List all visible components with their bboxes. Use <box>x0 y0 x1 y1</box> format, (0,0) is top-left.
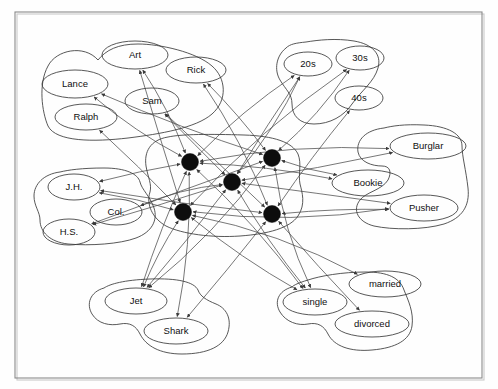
edge-hub-bottom-left-to-married <box>192 215 357 274</box>
edge-hub-bottom-left-to-ralph <box>100 130 176 205</box>
instance-unit-dot[interactable] <box>182 154 199 171</box>
node-hub-bottom-left[interactable] <box>175 204 192 221</box>
node-bookie[interactable]: Bookie <box>332 170 404 196</box>
node-label-art: Art <box>129 49 142 60</box>
edge-hub-bottom-right-to-sam <box>166 114 265 207</box>
instance-unit-dot[interactable] <box>264 206 281 223</box>
node-label-shark: Shark <box>164 325 189 336</box>
node-20s[interactable]: 20s <box>284 52 332 76</box>
node-label-40s: 40s <box>351 92 367 103</box>
node-hs[interactable]: H.S. <box>43 219 95 245</box>
edge-hub-top-left-to-20s <box>198 75 295 155</box>
node-pusher[interactable]: Pusher <box>390 195 458 221</box>
instance-unit-dot[interactable] <box>175 204 192 221</box>
node-label-20s: 20s <box>300 58 316 69</box>
network-diagram-canvas: ArtRickLanceSamRalph20s30s40sBurglarBook… <box>0 0 498 389</box>
node-jh[interactable]: J.H. <box>48 174 100 200</box>
node-label-lance: Lance <box>62 78 88 89</box>
node-label-rick: Rick <box>187 64 206 75</box>
node-label-sam: Sam <box>142 95 162 106</box>
node-burglar[interactable]: Burglar <box>390 133 466 159</box>
edge-hub-bottom-right-to-pusher <box>282 209 389 213</box>
edge-hub-bottom-right-to-40s <box>278 111 350 207</box>
node-col[interactable]: Col. <box>90 199 142 225</box>
node-label-hs: H.S. <box>60 226 78 237</box>
gang-cluster <box>89 279 229 354</box>
diagram-stage: ArtRickLanceSamRalph20s30s40sBurglarBook… <box>0 0 498 389</box>
node-single[interactable]: single <box>283 289 347 315</box>
instance-unit-dot[interactable] <box>224 174 241 191</box>
node-label-ralph: Ralph <box>74 111 99 122</box>
node-lance[interactable]: Lance <box>42 70 108 98</box>
edge-hub-top-right-to-30s <box>279 70 350 150</box>
node-sam[interactable]: Sam <box>125 88 179 114</box>
node-hub-bottom-right[interactable] <box>264 206 281 223</box>
node-art[interactable]: Art <box>102 41 168 69</box>
node-label-jh: J.H. <box>66 181 83 192</box>
edge-hub-top-left-to-single <box>197 170 303 289</box>
node-hub-top-left[interactable] <box>182 154 199 171</box>
edge-hub-top-left-to-jet <box>142 171 187 286</box>
node-married[interactable]: married <box>349 271 421 297</box>
edge-hub-bottom-right-to-shark <box>187 222 266 318</box>
edge-hub-center-to-col <box>141 185 223 206</box>
edge-hub-top-left-to-jh <box>100 164 181 181</box>
edge-hub-center-to-single <box>238 190 306 288</box>
node-hub-top-right[interactable] <box>264 150 281 167</box>
instance-unit-dot[interactable] <box>264 150 281 167</box>
node-shark[interactable]: Shark <box>144 318 208 344</box>
node-rick[interactable]: Rick <box>166 57 226 83</box>
node-label-burglar: Burglar <box>413 140 444 151</box>
node-layer: ArtRickLanceSamRalph20s30s40sBurglarBook… <box>42 41 466 344</box>
node-divorced[interactable]: divorced <box>335 311 409 337</box>
node-label-jet: Jet <box>130 295 143 306</box>
node-jet[interactable]: Jet <box>105 288 167 314</box>
node-label-30s: 30s <box>352 52 368 63</box>
node-label-married: married <box>369 278 401 289</box>
node-label-bookie: Bookie <box>353 177 382 188</box>
node-label-single: single <box>303 296 328 307</box>
node-ralph[interactable]: Ralph <box>55 104 117 130</box>
node-hub-center[interactable] <box>224 174 241 191</box>
node-30s[interactable]: 30s <box>336 46 384 70</box>
node-label-pusher: Pusher <box>409 202 439 213</box>
node-40s[interactable]: 40s <box>335 86 383 110</box>
node-label-divorced: divorced <box>354 318 390 329</box>
node-label-col: Col. <box>108 206 125 217</box>
edge-hub-top-right-to-single <box>275 168 311 288</box>
